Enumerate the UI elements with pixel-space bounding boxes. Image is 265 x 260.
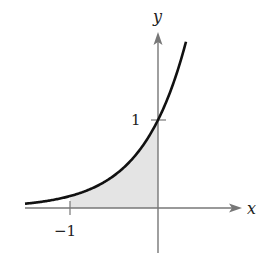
x-axis-label: x xyxy=(247,199,256,218)
y-axis-label: y xyxy=(152,7,163,26)
y-tick-label-1: 1 xyxy=(131,111,141,129)
shaded-area xyxy=(70,120,158,208)
x-tick-label-neg1: −1 xyxy=(54,222,76,240)
graph: y x 1 −1 xyxy=(0,0,265,260)
curve xyxy=(25,42,186,204)
